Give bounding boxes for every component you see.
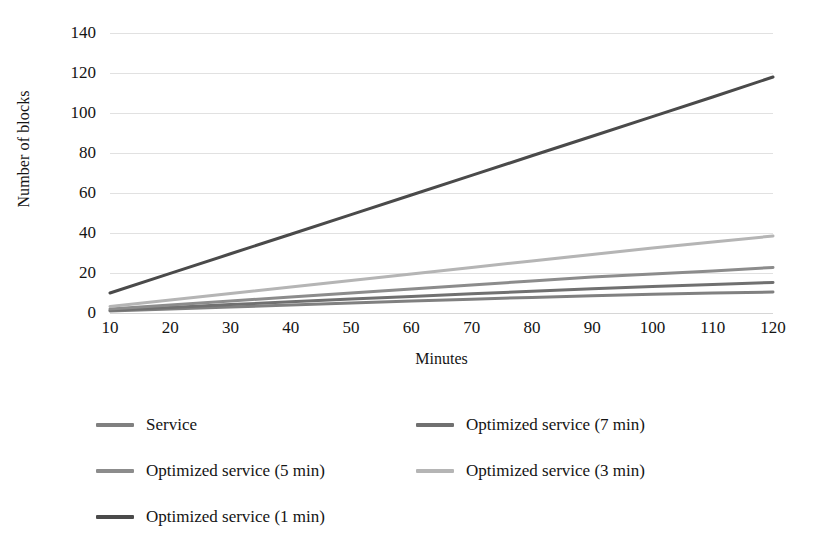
- legend-line-swatch-icon: [416, 469, 454, 473]
- x-tick-label: 40: [266, 318, 316, 338]
- legend-label: Optimized service (5 min): [146, 461, 325, 481]
- legend-line-swatch-icon: [96, 423, 134, 427]
- y-tick-label: 20: [36, 263, 96, 283]
- legend-label: Optimized service (7 min): [466, 415, 645, 435]
- legend-line-swatch-icon: [416, 423, 454, 427]
- x-tick-label: 50: [326, 318, 376, 338]
- series-line: [110, 77, 773, 293]
- x-tick-label: 30: [206, 318, 256, 338]
- plot-area: [110, 33, 773, 313]
- legend-item[interactable]: Service: [96, 412, 197, 438]
- legend-item[interactable]: Optimized service (5 min): [96, 458, 325, 484]
- x-tick-label: 20: [145, 318, 195, 338]
- y-tick-label: 120: [36, 63, 96, 83]
- legend-label: Optimized service (1 min): [146, 507, 325, 527]
- y-tick-label: 60: [36, 183, 96, 203]
- y-tick-label: 100: [36, 103, 96, 123]
- legend-line-swatch-icon: [96, 515, 134, 519]
- x-tick-label: 70: [447, 318, 497, 338]
- x-tick-label: 110: [688, 318, 738, 338]
- chart-legend: ServiceOptimized service (7 min)Optimize…: [96, 406, 756, 546]
- legend-line-swatch-icon: [96, 469, 134, 473]
- x-tick-label: 60: [386, 318, 436, 338]
- legend-label: Service: [146, 415, 197, 435]
- x-tick-label: 90: [567, 318, 617, 338]
- x-tick-label: 80: [507, 318, 557, 338]
- legend-label: Optimized service (3 min): [466, 461, 645, 481]
- x-tick-label: 10: [85, 318, 135, 338]
- legend-item[interactable]: Optimized service (7 min): [416, 412, 645, 438]
- y-tick-label: 40: [36, 223, 96, 243]
- x-tick-label: 100: [627, 318, 677, 338]
- plot-block: Number of blocks 020406080100120140 1020…: [0, 0, 816, 395]
- x-tick-label: 120: [748, 318, 798, 338]
- x-axis-title: Minutes: [110, 350, 773, 368]
- series-lines: [110, 33, 773, 313]
- y-tick-label: 140: [36, 23, 96, 43]
- y-tick-label: 80: [36, 143, 96, 163]
- series-line: [110, 267, 773, 309]
- line-chart-figure: Number of blocks 020406080100120140 1020…: [0, 0, 816, 550]
- x-axis-tick-labels: 102030405060708090100110120: [110, 318, 773, 344]
- legend-item[interactable]: Optimized service (1 min): [96, 504, 325, 530]
- legend-item[interactable]: Optimized service (3 min): [416, 458, 645, 484]
- gridline: [110, 313, 773, 314]
